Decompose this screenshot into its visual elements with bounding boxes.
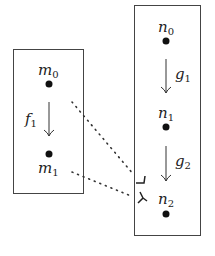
label-m0-sub: 0 (52, 69, 58, 80)
node-n0-dot (163, 38, 170, 45)
node-m1-dot (46, 151, 53, 158)
label-m1-sub: 1 (52, 167, 58, 178)
node-n2-dot (163, 211, 170, 218)
dotted-link-m1-n2 (72, 172, 131, 196)
label-f1: f1 (25, 112, 37, 129)
label-m1-base: m (38, 159, 52, 177)
label-n0-base: n (158, 18, 168, 36)
label-f1-sub: 1 (31, 118, 37, 129)
label-g1: g1 (175, 67, 191, 84)
label-n2-sub: 2 (168, 198, 174, 209)
label-g1-base: g (175, 65, 185, 83)
dotted-link-m0-n2 (72, 102, 134, 175)
label-n0-sub: 0 (168, 26, 174, 37)
label-n0: n0 (158, 20, 174, 37)
label-m0-base: m (38, 61, 52, 79)
label-n1-base: n (158, 104, 168, 122)
label-g2-base: g (175, 152, 185, 170)
arrowhead-m1-n2 (138, 192, 147, 203)
label-n2-base: n (158, 190, 168, 208)
arrow-g1 (161, 59, 171, 93)
label-m1: m1 (38, 161, 59, 178)
node-m0-dot (46, 81, 53, 88)
node-n1-dot (163, 124, 170, 131)
label-g1-sub: 1 (185, 73, 191, 84)
label-g2: g2 (175, 154, 191, 171)
arrow-g2 (161, 146, 171, 181)
label-m0: m0 (38, 63, 59, 80)
label-n1-sub: 1 (168, 112, 174, 123)
arrow-f1 (44, 102, 54, 136)
label-g2-sub: 2 (185, 160, 191, 171)
label-n2: n2 (158, 192, 174, 209)
label-n1: n1 (158, 106, 174, 123)
arrowhead-m0-n2 (136, 176, 145, 183)
